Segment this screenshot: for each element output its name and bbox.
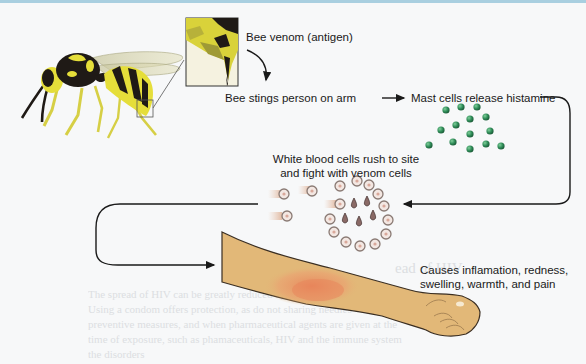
wasp-icon (22, 52, 184, 138)
arrow-histamine-to-wbc (404, 97, 570, 204)
arrow-venom-to-sting (247, 50, 266, 80)
venom-droplets-icon (342, 196, 375, 226)
diagram-canvas (0, 0, 586, 364)
label-wbc-line1: White blood cells rush to site (256, 152, 436, 166)
histamine-granules-icon (425, 103, 504, 152)
label-wbc-line2: and fight with venom cells (256, 166, 436, 180)
label-bee-stings: Bee stings person on arm (225, 91, 356, 105)
label-effects-line2: swelling, warmth, and pain (420, 277, 568, 291)
stinger-closeup-icon (186, 18, 238, 86)
label-mast-cells: Mast cells release histamine (411, 91, 555, 105)
label-effects: Causes inflamation, redness, swelling, w… (420, 263, 568, 291)
label-effects-line1: Causes inflamation, redness, (420, 263, 568, 277)
label-wbc: White blood cells rush to site and fight… (256, 152, 436, 180)
label-bee-venom: Bee venom (antigen) (246, 30, 353, 44)
